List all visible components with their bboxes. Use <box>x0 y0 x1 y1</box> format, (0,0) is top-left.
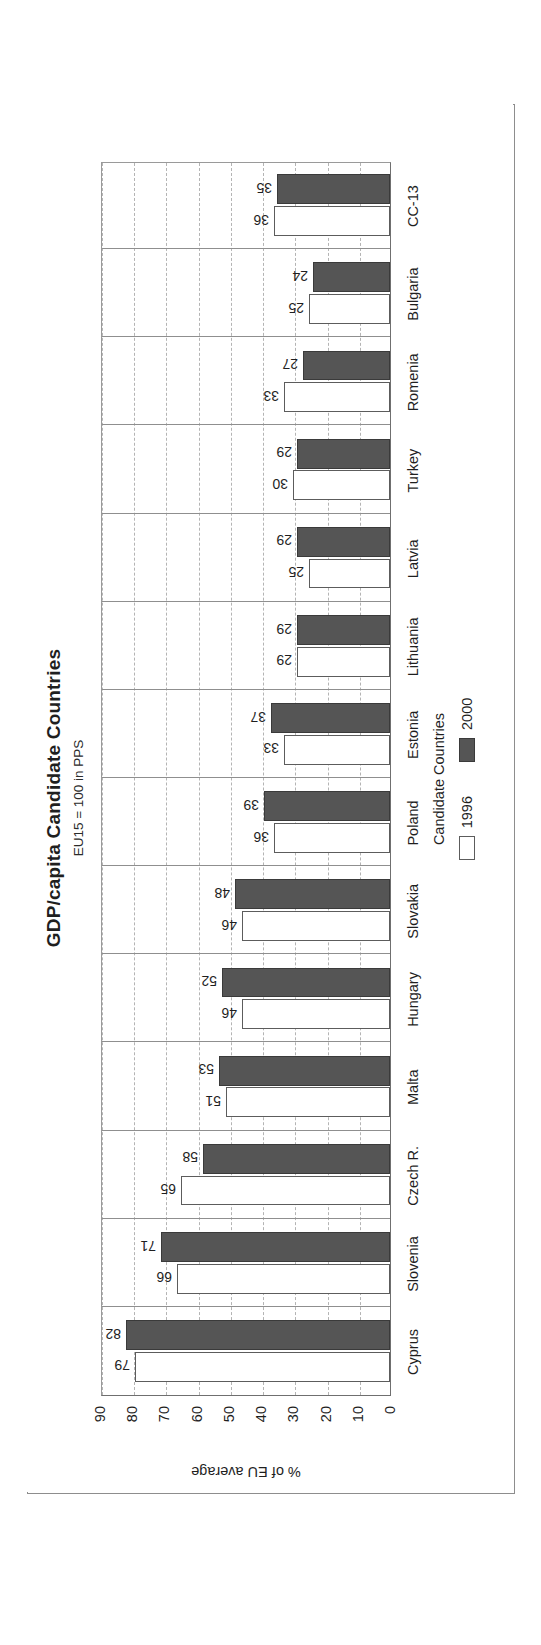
value-label-1996-slovakia: 46 <box>221 918 237 932</box>
value-label-2000-turkey: 29 <box>276 445 292 459</box>
x-axis-label-romenia: Romenia <box>405 353 421 411</box>
plot-area: 7982667165585153465246483639333729292529… <box>101 162 391 1396</box>
value-label-1996-malta: 51 <box>205 1094 221 1108</box>
gridline-vertical <box>102 513 390 514</box>
chart-title: GDP/capita Candidate Countries <box>43 104 65 1492</box>
x-axis-label-turkey: Turkey <box>405 449 421 493</box>
x-axis-label-cc-13: CC-13 <box>405 185 421 227</box>
gridline-vertical <box>102 1041 390 1042</box>
chart-subtitle: EU15 = 100 in PPS <box>71 104 86 1492</box>
bar-2000-latvia <box>297 527 390 557</box>
bar-1996-romenia <box>284 382 390 412</box>
bar-1996-turkey <box>293 470 390 500</box>
value-label-2000-cc-13: 35 <box>257 181 273 195</box>
bar-1996-cyprus <box>135 1352 390 1382</box>
value-label-2000-estonia: 37 <box>250 710 266 724</box>
bar-2000-hungary <box>222 968 390 998</box>
value-label-1996-czech-r: 65 <box>160 1182 176 1196</box>
bar-1996-slovakia <box>242 911 390 941</box>
legend-label-1996: 1996 <box>459 796 475 828</box>
value-label-1996-bulgaria: 25 <box>289 301 305 315</box>
gridline-horizontal <box>360 163 361 1395</box>
value-label-2000-poland: 39 <box>244 798 260 812</box>
legend-item-2000: 2000 <box>459 698 475 762</box>
gridline-vertical <box>102 1218 390 1219</box>
bar-1996-lithuania <box>297 647 390 677</box>
y-tick-0: 0 <box>382 1406 398 1452</box>
y-axis-title: % of EU average <box>101 1462 391 1482</box>
value-label-2000-lithuania: 29 <box>276 622 292 636</box>
bar-2000-romenia <box>303 351 390 381</box>
legend-item-1996: 1996 <box>459 796 475 860</box>
x-axis-label-lithuania: Lithuania <box>405 617 421 676</box>
bar-2000-slovenia <box>161 1232 390 1262</box>
value-label-1996-estonia: 33 <box>263 741 279 755</box>
scanned-page: GDP/capita Candidate Countries EU15 = 10… <box>0 0 541 1645</box>
gridline-horizontal <box>231 163 232 1395</box>
bar-chart: GDP/capita Candidate Countries EU15 = 10… <box>27 104 513 1492</box>
bar-1996-bulgaria <box>309 294 390 324</box>
y-tick-20: 20 <box>318 1406 334 1452</box>
value-label-1996-lithuania: 29 <box>276 653 292 667</box>
legend-swatch-2000 <box>459 738 475 762</box>
value-label-1996-romenia: 33 <box>263 389 279 403</box>
value-label-2000-slovakia: 48 <box>215 886 231 900</box>
gridline-vertical <box>102 336 390 337</box>
y-tick-50: 50 <box>221 1406 237 1452</box>
x-axis-label-malta: Malta <box>405 1070 421 1105</box>
x-axis-label-slovakia: Slovakia <box>405 884 421 939</box>
value-label-2000-czech-r: 58 <box>183 1150 199 1164</box>
x-axis-label-latvia: Latvia <box>405 539 421 578</box>
bar-2000-turkey <box>297 439 390 469</box>
y-tick-40: 40 <box>253 1406 269 1452</box>
legend-label-2000: 2000 <box>459 698 475 730</box>
bar-1996-czech-r <box>181 1176 390 1206</box>
gridline-horizontal <box>328 163 329 1395</box>
value-label-2000-hungary: 52 <box>202 974 218 988</box>
bar-1996-latvia <box>309 559 390 589</box>
gridline-vertical <box>102 1130 390 1131</box>
gridline-horizontal <box>102 163 103 1395</box>
gridline-vertical <box>102 777 390 778</box>
bar-2000-slovakia <box>235 879 390 909</box>
y-tick-70: 70 <box>156 1406 172 1452</box>
bar-1996-cc-13 <box>274 206 390 236</box>
x-axis-label-hungary: Hungary <box>405 972 421 1027</box>
bar-1996-hungary <box>242 999 390 1029</box>
bar-2000-bulgaria <box>313 262 390 292</box>
gridline-horizontal <box>295 163 296 1395</box>
value-label-2000-romenia: 27 <box>282 357 298 371</box>
y-axis-title-label: % of EU average <box>191 1464 301 1480</box>
value-label-1996-slovenia: 66 <box>157 1270 173 1284</box>
value-label-1996-latvia: 25 <box>289 565 305 579</box>
bar-2000-cyprus <box>126 1320 390 1350</box>
gridline-horizontal <box>199 163 200 1395</box>
x-axis-label-estonia: Estonia <box>405 711 421 759</box>
bar-2000-czech-r <box>203 1144 390 1174</box>
x-axis-label-bulgaria: Bulgaria <box>405 268 421 321</box>
bar-2000-malta <box>219 1056 390 1086</box>
y-tick-30: 30 <box>285 1406 301 1452</box>
gridline-vertical <box>102 1306 390 1307</box>
bar-2000-poland <box>264 791 390 821</box>
gridline-vertical <box>102 248 390 249</box>
bar-2000-cc-13 <box>277 174 390 204</box>
x-axis-label-slovenia: Slovenia <box>405 1236 421 1292</box>
value-label-2000-bulgaria: 24 <box>292 269 308 283</box>
x-axis-label-cyprus: Cyprus <box>405 1329 421 1375</box>
value-label-2000-cyprus: 82 <box>105 1327 121 1341</box>
bar-1996-slovenia <box>177 1264 390 1294</box>
gridline-horizontal <box>166 163 167 1395</box>
value-label-2000-malta: 53 <box>199 1062 215 1076</box>
value-label-2000-slovenia: 71 <box>141 1239 157 1253</box>
bar-1996-poland <box>274 823 390 853</box>
value-label-1996-hungary: 46 <box>221 1006 237 1020</box>
y-tick-80: 80 <box>124 1406 140 1452</box>
bar-2000-lithuania <box>297 615 390 645</box>
value-label-1996-cyprus: 79 <box>115 1358 131 1372</box>
gridline-vertical <box>102 424 390 425</box>
x-axis-title: Candidate Countries <box>431 162 447 1396</box>
gridline-vertical <box>102 689 390 690</box>
gridline-vertical <box>102 953 390 954</box>
value-label-1996-poland: 36 <box>253 830 269 844</box>
